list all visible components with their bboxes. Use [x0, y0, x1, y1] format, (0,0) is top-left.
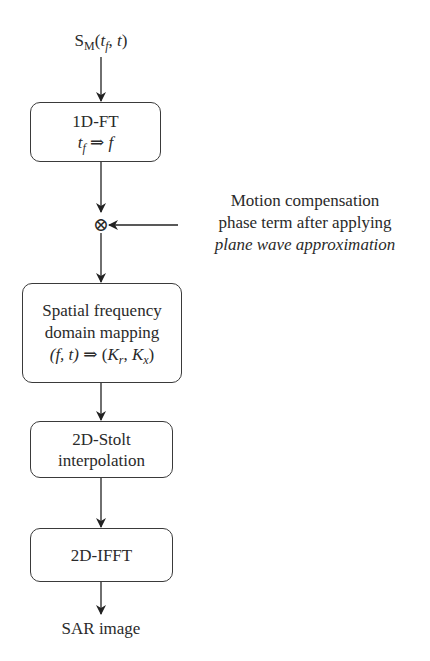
motion-compensation-label: Motion compensation phase term after app…	[185, 190, 425, 256]
node-1d-ft: 1D-FT tf ⇒ f	[30, 102, 161, 162]
multiply-symbol: ⊗	[91, 213, 111, 237]
node-spatial-frequency-mapping: Spatial frequency domain mapping (f, t) …	[22, 283, 182, 383]
node-1d-ft-formula: tf ⇒ f	[78, 132, 114, 153]
output-sar-image-label: SAR image	[40, 618, 162, 639]
input-signal-label: SM(tf, t)	[50, 30, 152, 51]
node-2d-ifft: 2D-IFFT	[30, 528, 173, 582]
node-2d-stolt-interpolation: 2D-Stolt interpolation	[30, 421, 173, 478]
node-1d-ft-title: 1D-FT	[72, 111, 118, 132]
